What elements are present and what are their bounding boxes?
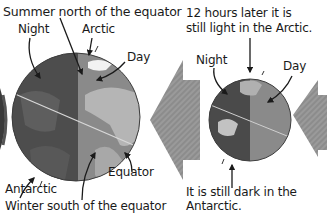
title-summer-north: Summer north of the equator: [3, 5, 182, 18]
caption-12-hours-line2: still light in the Arctic.: [186, 22, 312, 35]
label-winter-south: Winter south of the equator: [5, 200, 166, 213]
label-day-left: Day: [127, 51, 150, 64]
label-antarctic: Antarctic: [5, 183, 57, 196]
label-equator: Equator: [108, 166, 154, 179]
label-arctic: Arctic: [82, 23, 115, 36]
partial-globe-left-edge: [0, 88, 6, 150]
label-night-left: Night: [18, 23, 49, 36]
caption-12-hours-line1: 12 hours later it is: [186, 7, 292, 20]
caption-dark-antarctic-line2: Antarctic.: [186, 200, 242, 213]
label-night-right: Night: [196, 54, 227, 67]
sunlight-arrow-right: [293, 80, 327, 157]
caption-dark-antarctic-line1: It is still dark in the: [186, 186, 297, 199]
label-day-right: Day: [283, 60, 306, 73]
earth-globe-12-hours-later: [205, 75, 295, 165]
sunlight-arrow-left: [150, 60, 200, 180]
